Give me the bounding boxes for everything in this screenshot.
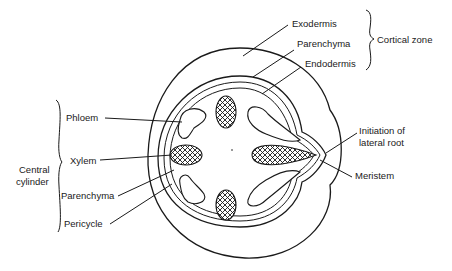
- phloem-lower-right: [248, 171, 300, 206]
- label-xylem: Xylem: [70, 155, 96, 166]
- central-cylinder-brace: [56, 100, 62, 232]
- label-pericycle: Pericycle: [64, 218, 103, 229]
- label-endodermis: Endodermis: [305, 58, 356, 69]
- label-exodermis: Exodermis: [292, 18, 337, 29]
- label-phloem: Phloem: [66, 112, 98, 123]
- label-parenchyma-cortex: Parenchyma: [297, 38, 351, 49]
- root-cross-section-diagram: Exodermis Parenchyma Endodermis Cortical…: [0, 0, 452, 271]
- label-cylinder: cylinder: [16, 176, 49, 187]
- phloem-lower-left: [180, 175, 205, 203]
- label-initiation-line1: Initiation of: [359, 125, 405, 136]
- center-dot: [231, 149, 233, 151]
- label-parenchyma-central: Parenchyma: [61, 190, 115, 201]
- phloem-upper-left: [178, 109, 206, 139]
- label-initiation-line2: lateral root: [359, 137, 404, 148]
- xylem-bottom: [216, 190, 236, 220]
- xylem-right-lateral: [252, 145, 316, 164]
- label-meristem: Meristem: [355, 170, 394, 181]
- phloem-upper-right: [248, 107, 300, 141]
- xylem-left: [170, 145, 202, 165]
- xylem-top: [216, 96, 236, 128]
- label-central: Central: [19, 164, 50, 175]
- cortical-zone-brace: [366, 10, 374, 70]
- label-cortical-zone: Cortical zone: [377, 34, 432, 45]
